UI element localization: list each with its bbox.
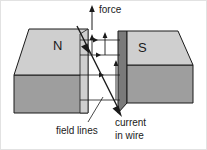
field-lines-label: field lines: [56, 125, 98, 136]
north-magnet: [14, 29, 88, 113]
south-pole-label: S: [138, 40, 147, 55]
field-arrowhead-2: [96, 52, 101, 57]
south-magnet: [118, 31, 193, 113]
force-arrowhead-left: [90, 34, 95, 40]
current-callout: current in wire: [115, 117, 146, 141]
force-arrowhead-mid: [103, 32, 108, 38]
south-magnet-front-face: [127, 65, 193, 103]
south-magnet-top-face: [127, 31, 193, 65]
north-pole-label: N: [53, 38, 62, 53]
motor-effect-diagram: force N S field lines current in wire: [0, 0, 207, 150]
force-main-arrowhead: [89, 5, 95, 12]
force-annotation: force: [89, 4, 121, 30]
south-magnet-end-face: [118, 31, 127, 113]
field-line-arrowheads: [93, 37, 104, 77]
force-label: force: [99, 4, 122, 15]
current-label-line2: in wire: [115, 130, 144, 141]
current-label-line1: current: [115, 117, 146, 128]
north-magnet-top-face: [14, 29, 88, 75]
north-magnet-front-face: [14, 75, 88, 113]
field-lines-leader-line: [88, 97, 103, 122]
force-arrows-group: [92, 36, 116, 100]
figure-container: force N S field lines current in wire: [0, 0, 207, 150]
